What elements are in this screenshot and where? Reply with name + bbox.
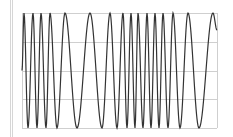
line-chart — [0, 0, 233, 137]
signal-line — [22, 13, 217, 128]
